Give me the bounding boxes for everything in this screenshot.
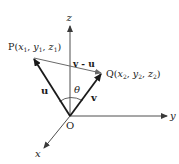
z-axis-label: z <box>66 12 73 23</box>
origin-label: O <box>66 120 74 131</box>
vector-u <box>34 59 70 116</box>
x-axis-label: x <box>35 148 41 159</box>
vector-diff-label: v - u <box>72 59 95 69</box>
theta-arc <box>60 97 83 101</box>
theta-label: θ <box>74 84 80 95</box>
vector-u-label: u <box>41 85 48 96</box>
point-q-label: Q(x2, y2, z2) <box>106 68 161 80</box>
y-axis-label: y <box>169 110 176 121</box>
vector-angle-diagram: z y x O P(x1, y1, z1) Q(x2, y2, z2) u v … <box>0 0 179 164</box>
vector-v-label: v <box>90 92 98 103</box>
point-p-label: P(x1, y1, z1) <box>8 41 61 53</box>
